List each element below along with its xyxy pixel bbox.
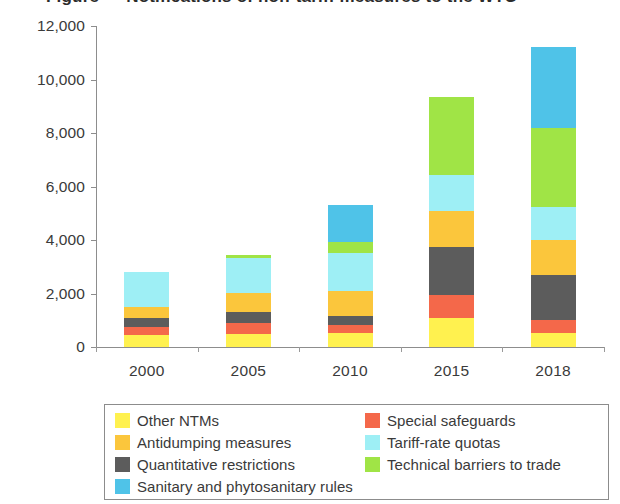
bar-segment	[429, 295, 474, 318]
bar-segment	[124, 335, 169, 347]
x-axis-line	[96, 347, 604, 348]
bar-segment	[531, 47, 576, 128]
x-tick-label: 2015	[434, 362, 470, 380]
y-tick-label: 6,000	[46, 178, 85, 196]
legend-swatch-icon	[365, 435, 380, 450]
bar-segment	[328, 325, 373, 333]
x-tick	[502, 347, 503, 352]
x-tick	[401, 347, 402, 352]
bar-segment	[531, 320, 576, 333]
y-tick	[91, 26, 96, 27]
y-tick-label: 0	[76, 338, 85, 356]
legend-swatch-icon	[115, 413, 130, 428]
y-tick	[91, 240, 96, 241]
bar-segment	[429, 318, 474, 347]
bar-segment	[328, 242, 373, 253]
bar-segment	[226, 293, 271, 312]
legend-item: Other NTMs	[115, 413, 219, 428]
bar-2005	[226, 255, 271, 347]
bar-segment	[124, 307, 169, 318]
y-tick-label: 4,000	[46, 231, 85, 249]
bar-segment	[226, 323, 271, 333]
legend-label: Tariff-rate quotas	[387, 435, 500, 450]
legend-label: Other NTMs	[137, 413, 219, 428]
bar-2010	[328, 205, 373, 347]
bar-segment	[531, 240, 576, 275]
x-tick-label: 2005	[231, 362, 267, 380]
bar-segment	[124, 318, 169, 327]
legend-item: Tariff-rate quotas	[365, 435, 500, 450]
bar-segment	[226, 258, 271, 294]
y-tick	[91, 187, 96, 188]
y-tick	[91, 80, 96, 81]
legend-items: Other NTMsSpecial safeguardsAntidumping …	[105, 405, 608, 499]
chart-legend: Other NTMsSpecial safeguardsAntidumping …	[104, 404, 609, 500]
bar-segment	[226, 334, 271, 347]
x-tick	[299, 347, 300, 352]
bar-segment	[429, 175, 474, 211]
bar-segment	[429, 247, 474, 295]
y-tick-label: 2,000	[46, 285, 85, 303]
legend-label: Antidumping measures	[137, 435, 291, 450]
bar-2015	[429, 97, 474, 347]
x-tick-label: 2010	[332, 362, 368, 380]
bar-segment	[124, 272, 169, 307]
plot-area: 02,0004,0006,0008,00010,00012,000 200020…	[96, 26, 604, 347]
bar-segment	[328, 205, 373, 242]
legend-swatch-icon	[365, 457, 380, 472]
bar-segment	[328, 291, 373, 316]
x-tick-label: 2000	[129, 362, 165, 380]
legend-label: Quantitative restrictions	[137, 457, 295, 472]
legend-item: Sanitary and phytosanitary rules	[115, 479, 353, 494]
x-tick	[96, 347, 97, 352]
bar-segment	[429, 97, 474, 175]
bar-2000	[124, 272, 169, 347]
bar-2018	[531, 47, 576, 347]
legend-swatch-icon	[115, 457, 130, 472]
legend-swatch-icon	[115, 479, 130, 494]
legend-swatch-icon	[365, 413, 380, 428]
bar-segment	[531, 128, 576, 207]
y-tick-label: 12,000	[37, 17, 85, 35]
legend-label: Special safeguards	[387, 413, 515, 428]
bar-segment	[328, 253, 373, 291]
bar-segment	[328, 316, 373, 325]
legend-swatch-icon	[115, 435, 130, 450]
legend-label: Technical barriers to trade	[387, 457, 561, 472]
bar-segment	[531, 275, 576, 320]
bar-segment	[531, 207, 576, 240]
y-axis-line	[96, 26, 97, 347]
legend-label: Sanitary and phytosanitary rules	[137, 479, 353, 494]
y-tick-label: 8,000	[46, 124, 85, 142]
legend-item: Technical barriers to trade	[365, 457, 561, 472]
figure-title-text: Figure — Notifications of non-tariff mea…	[46, 0, 518, 7]
x-tick-label: 2018	[535, 362, 571, 380]
bar-segment	[429, 211, 474, 247]
bar-segment	[124, 327, 169, 335]
y-tick	[91, 133, 96, 134]
bar-segment	[328, 333, 373, 347]
x-tick	[198, 347, 199, 352]
figure-title-cropped: Figure — Notifications of non-tariff mea…	[0, 0, 620, 12]
bar-segment	[531, 333, 576, 347]
legend-item: Quantitative restrictions	[115, 457, 295, 472]
x-tick	[604, 347, 605, 352]
legend-item: Antidumping measures	[115, 435, 291, 450]
y-tick	[91, 294, 96, 295]
bar-segment	[226, 312, 271, 323]
legend-item: Special safeguards	[365, 413, 515, 428]
chart-figure: Figure — Notifications of non-tariff mea…	[0, 0, 620, 504]
y-tick-label: 10,000	[37, 71, 85, 89]
